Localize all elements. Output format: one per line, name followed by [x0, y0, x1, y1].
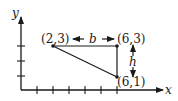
coordinate-diagram: y x (2,3) (6,3) (6,1) b h: [0, 0, 178, 101]
point-label-2-3: (2,3): [41, 32, 69, 46]
y-axis-label: y: [11, 6, 19, 20]
height-label: h: [129, 55, 137, 69]
right-triangle: [53, 46, 117, 77]
point-label-6-1: (6,1): [117, 75, 145, 89]
x-axis-label: x: [165, 83, 172, 97]
point-label-6-3: (6,3): [117, 32, 145, 46]
base-label: b: [89, 32, 97, 46]
